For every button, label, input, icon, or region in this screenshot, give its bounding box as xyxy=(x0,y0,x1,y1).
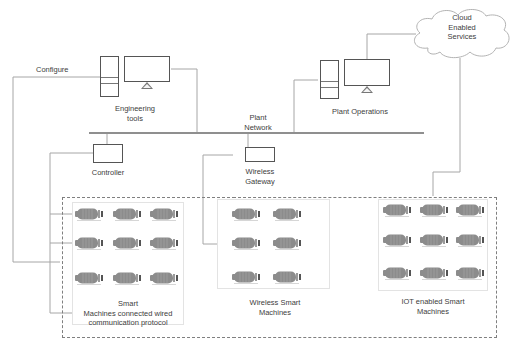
smart-machine-icon xyxy=(112,271,142,285)
smart-machine-icon xyxy=(149,207,179,221)
smart-machine-icon xyxy=(74,236,104,250)
smart-machine-icon xyxy=(382,233,412,247)
smart-machine-icon xyxy=(149,236,179,250)
smart-machine-icon xyxy=(74,207,104,221)
wireless-group-label: Wireless Smart Machines xyxy=(225,298,325,317)
configure-label: Configure xyxy=(36,65,69,75)
controller-label: Controller xyxy=(84,168,132,178)
smart-machine-icon xyxy=(272,207,302,221)
smart-machine-icon xyxy=(112,207,142,221)
smart-machine-icon xyxy=(272,236,302,250)
monitor-stand-icon xyxy=(141,82,153,89)
wired-group-label: Smart Machines connected wired communica… xyxy=(72,299,184,328)
plant-ops-network-wire xyxy=(294,80,318,133)
cloud-label: Cloud Enabled Services xyxy=(440,13,484,42)
smart-machine-icon xyxy=(149,271,179,285)
pc-tower-icon xyxy=(320,60,339,99)
smart-machine-icon xyxy=(231,270,261,284)
smart-machine-icon xyxy=(419,203,449,217)
monitor-icon xyxy=(124,56,170,82)
smart-machine-icon xyxy=(419,266,449,280)
smart-machine-icon xyxy=(455,203,485,217)
monitor-icon xyxy=(344,59,390,86)
smart-machine-icon xyxy=(112,236,142,250)
smart-machine-icon xyxy=(231,236,261,250)
smart-machine-icon xyxy=(74,271,104,285)
smart-machine-icon xyxy=(272,270,302,284)
plant-network-label: Plant Network xyxy=(238,113,278,132)
smart-machine-icon xyxy=(382,203,412,217)
gateway-box-icon xyxy=(245,147,275,162)
smart-machine-icon xyxy=(231,207,261,221)
plant-operations-label: Plant Operations xyxy=(320,107,400,117)
smart-machine-icon xyxy=(455,266,485,280)
monitor-stand-icon xyxy=(361,86,373,93)
wireless-gateway-label: Wireless Gateway xyxy=(238,167,282,186)
engineering-network-wire xyxy=(171,69,197,133)
pc-tower-icon xyxy=(100,56,119,97)
smart-machine-icon xyxy=(455,233,485,247)
cloud-iot-wire xyxy=(433,58,460,196)
engineering-tools-label: Engineering tools xyxy=(109,104,161,123)
controller-box-icon xyxy=(93,144,123,163)
iot-group-label: IOT enabled Smart Machines xyxy=(385,297,481,316)
smart-machine-icon xyxy=(382,266,412,280)
smart-machine-icon xyxy=(419,233,449,247)
